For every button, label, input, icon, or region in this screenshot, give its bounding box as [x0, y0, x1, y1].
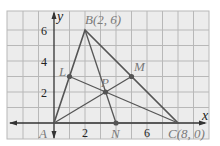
y-tick-2: 2	[41, 86, 47, 100]
label-b: B(2, 6)	[85, 12, 121, 27]
x-tick-6: 6	[144, 126, 150, 140]
coordinate-diagram: 6 4 2 2 6 y x B(2, 6) A C(8, 0) L M N P	[0, 0, 220, 146]
label-m: M	[133, 59, 146, 74]
label-a: A	[38, 126, 47, 141]
point-n	[113, 120, 118, 125]
y-tick-6: 6	[41, 24, 47, 38]
label-n: N	[110, 126, 121, 141]
x-tick-2: 2	[82, 126, 88, 140]
label-c: C(8, 0)	[168, 126, 205, 141]
point-l	[67, 74, 72, 79]
label-p: P	[100, 75, 109, 90]
point-p	[103, 89, 108, 94]
y-tick-4: 4	[41, 55, 47, 69]
point-m	[129, 74, 134, 79]
y-axis-label: y	[55, 9, 64, 24]
label-l: L	[58, 64, 66, 79]
x-axis-label: x	[201, 108, 209, 123]
